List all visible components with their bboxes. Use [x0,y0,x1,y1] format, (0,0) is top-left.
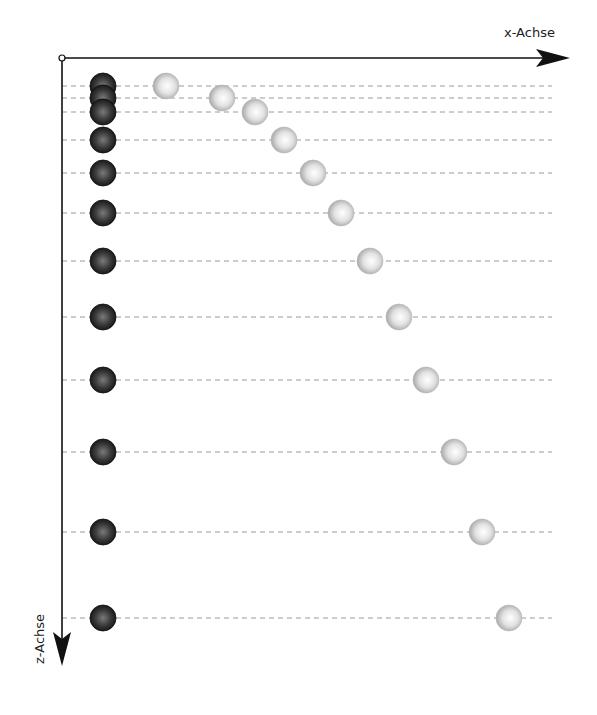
light-ball [413,367,439,393]
light-ball [469,519,495,545]
dark-balls [90,73,116,631]
light-ball [441,439,467,465]
dark-ball [90,160,116,186]
dark-ball [90,304,116,330]
dark-ball [90,127,116,153]
dark-ball [90,519,116,545]
light-ball [153,73,179,99]
dark-ball [90,605,116,631]
x-axis-label: x-Achse [504,25,555,40]
dark-ball [90,248,116,274]
light-ball [496,605,522,631]
dark-ball [90,99,116,125]
light-ball [386,304,412,330]
light-balls [153,73,522,631]
dark-ball [90,200,116,226]
light-ball [357,248,383,274]
light-ball [300,160,326,186]
motion-diagram: x-Achse z-Achse [0,0,597,715]
light-ball [209,85,235,111]
origin-marker [59,55,65,61]
dark-ball [90,367,116,393]
dark-ball [90,439,116,465]
z-axis-label: z-Achse [32,614,47,664]
light-ball [242,99,268,125]
light-ball [271,127,297,153]
light-ball [328,200,354,226]
